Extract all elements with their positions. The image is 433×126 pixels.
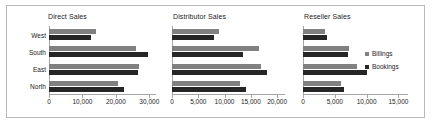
x-axis-tick-label: 15,000 [389, 98, 409, 105]
bar-west-bookings [172, 35, 214, 40]
x-axis-tick-label: 0 [47, 98, 51, 105]
x-axis-tick-label: 10,000 [215, 98, 235, 105]
legend-label: Bookings [372, 63, 399, 70]
chart-panel-direct-sales: Direct Sales 010,00020,00030,000WestSout… [12, 6, 162, 119]
bar-east-bookings [49, 70, 138, 75]
chart-panel-distributor-sales: Distributor Sales 05,00010,00015,00020,0… [162, 6, 292, 119]
bar-south-bookings [303, 52, 348, 57]
bar-east-billings [49, 64, 139, 69]
bar-south-billings [49, 46, 136, 51]
chart-legend: Billings Bookings [365, 50, 399, 76]
panel-title: Distributor Sales [173, 13, 226, 20]
bar-north-billings [49, 81, 118, 86]
category-label-north: North [15, 83, 46, 90]
category-label-south: South [15, 48, 46, 55]
chart-panel-reseller-sales: Reseller Sales 05,00010,00015,000 [292, 6, 424, 119]
bar-west-bookings [303, 35, 327, 40]
chart-frame: Direct Sales 010,00020,00030,000WestSout… [6, 5, 425, 118]
x-axis-tick-label: 20,000 [106, 98, 126, 105]
bar-north-bookings [303, 87, 344, 92]
category-label-east: East [15, 66, 46, 73]
x-axis-tick-label: 30,000 [139, 98, 159, 105]
plot-area-0: 010,00020,00030,000WestSouthEastNorth [49, 26, 156, 95]
x-axis-line [303, 94, 408, 95]
x-axis-line [49, 94, 156, 95]
bar-north-bookings [172, 87, 246, 92]
bar-west-bookings [49, 35, 91, 40]
x-axis-tick-label: 0 [170, 98, 174, 105]
bar-east-billings [172, 64, 261, 69]
legend-swatch-icon [365, 65, 369, 69]
bar-south-billings [172, 46, 259, 51]
bar-south-bookings [49, 52, 148, 57]
bar-west-billings [172, 29, 219, 34]
bar-west-billings [303, 29, 325, 34]
bar-east-billings [303, 64, 357, 69]
x-axis-tick-label: 15,000 [241, 98, 261, 105]
bar-south-billings [303, 46, 349, 51]
bar-south-bookings [172, 52, 243, 57]
legend-item-bookings: Bookings [365, 63, 399, 70]
x-axis-tick-label: 10,000 [357, 98, 377, 105]
x-axis-tick-label: 5,000 [327, 98, 343, 105]
category-label-west: West [15, 31, 46, 38]
bar-north-billings [172, 81, 240, 86]
panel-title: Direct Sales [48, 13, 87, 20]
x-axis-line [172, 94, 285, 95]
x-axis-tick-label: 0 [301, 98, 305, 105]
legend-swatch-icon [365, 52, 369, 56]
bar-east-bookings [172, 70, 267, 75]
plot-area-1: 05,00010,00015,00020,000 [172, 26, 285, 95]
x-axis-tick-label: 10,000 [72, 98, 92, 105]
x-axis-tick-label: 5,000 [190, 98, 206, 105]
x-axis-tick-label: 20,000 [267, 98, 287, 105]
panel-title: Reseller Sales [304, 13, 351, 20]
legend-label: Billings [372, 50, 393, 57]
bar-north-bookings [49, 87, 124, 92]
bar-west-billings [49, 29, 96, 34]
bar-north-billings [303, 81, 341, 86]
bar-east-bookings [303, 70, 367, 75]
legend-item-billings: Billings [365, 50, 399, 57]
